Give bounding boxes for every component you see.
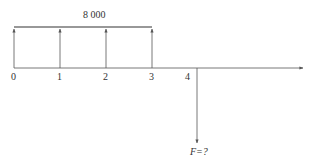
period-label-0: 0 xyxy=(11,71,16,82)
unknown-value-label: F=? xyxy=(189,146,208,157)
period-label-4: 4 xyxy=(185,71,190,82)
cash-flow-diagram: 8 000 0 1 2 3 4 F=? xyxy=(0,0,310,165)
period-label-2: 2 xyxy=(103,71,108,82)
period-label-3: 3 xyxy=(149,71,154,82)
amount-label: 8 000 xyxy=(83,9,106,20)
period-label-1: 1 xyxy=(57,71,62,82)
